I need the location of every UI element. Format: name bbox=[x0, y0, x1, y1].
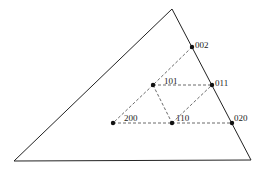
point-110 bbox=[170, 121, 174, 125]
edge-101-110 bbox=[153, 85, 172, 123]
simplex-diagram: 002 101 011 200 110 020 bbox=[0, 0, 264, 169]
label-101: 101 bbox=[164, 76, 178, 86]
label-002: 002 bbox=[195, 40, 209, 50]
point-200 bbox=[111, 121, 115, 125]
point-002 bbox=[190, 45, 194, 49]
label-020: 020 bbox=[234, 113, 248, 123]
point-101 bbox=[151, 83, 155, 87]
label-011: 011 bbox=[215, 78, 228, 88]
point-011 bbox=[210, 83, 214, 87]
point-labels: 002 101 011 200 110 020 bbox=[124, 40, 248, 123]
label-110: 110 bbox=[176, 113, 190, 123]
label-200: 200 bbox=[124, 113, 138, 123]
